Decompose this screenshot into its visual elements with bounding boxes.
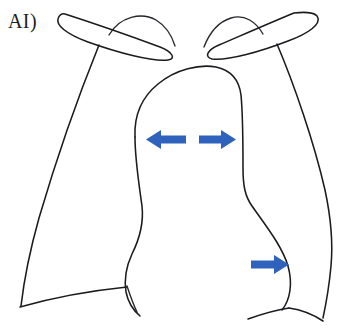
left-hemidiaphragm [20, 287, 127, 307]
right-hemidiaphragm [248, 308, 289, 319]
right-lung-apex [204, 17, 263, 47]
arrow-mediastinum-left [146, 130, 186, 149]
right-clavicle [208, 12, 319, 59]
figure-container: Chest radiograph schematic with directio… [0, 0, 356, 335]
left-lung-apex [109, 16, 175, 46]
chest-radiograph-diagram: Chest radiograph schematic with directio… [0, 0, 356, 335]
right-cardiophrenic-angle [289, 308, 323, 321]
arrow-mediastinum-right [199, 130, 236, 149]
arrow-cardiac-border-right [251, 255, 289, 274]
panel-label: AI) [8, 10, 37, 33]
left-lung-border [21, 45, 99, 306]
right-lung-border [277, 44, 332, 318]
left-clavicle [58, 14, 173, 61]
mediastinum-right-border [135, 66, 291, 310]
